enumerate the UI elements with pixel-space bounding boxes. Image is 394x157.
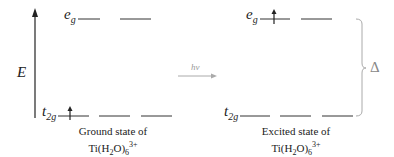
ground-state-caption: Ground state of Ti(H2O)63+ bbox=[53, 125, 173, 157]
excited-state-caption: Excited state of Ti(H2O)63+ bbox=[236, 125, 356, 157]
excited-caption-formula: Ti(H2O)63+ bbox=[236, 138, 356, 157]
excited-electron-arrowhead bbox=[272, 9, 277, 14]
ground-caption-line1: Ground state of bbox=[53, 125, 173, 138]
energy-axis-label: E bbox=[17, 64, 26, 81]
ground-caption-formula: Ti(H2O)63+ bbox=[53, 138, 173, 157]
excited-t2g-label: t2g bbox=[224, 103, 238, 120]
energy-axis-arrowhead bbox=[32, 8, 38, 17]
splitting-label: Δ bbox=[370, 59, 380, 76]
excited-eg-label: eg bbox=[246, 6, 258, 23]
ground-electron-arrowhead bbox=[68, 106, 73, 111]
transition-arrowhead bbox=[211, 74, 217, 79]
ground-t2g-label: t2g bbox=[42, 103, 56, 120]
ground-eg-label: eg bbox=[64, 6, 76, 23]
transition-label: hν bbox=[191, 62, 200, 72]
splitting-brace bbox=[356, 19, 366, 116]
excited-caption-line1: Excited state of bbox=[236, 125, 356, 138]
